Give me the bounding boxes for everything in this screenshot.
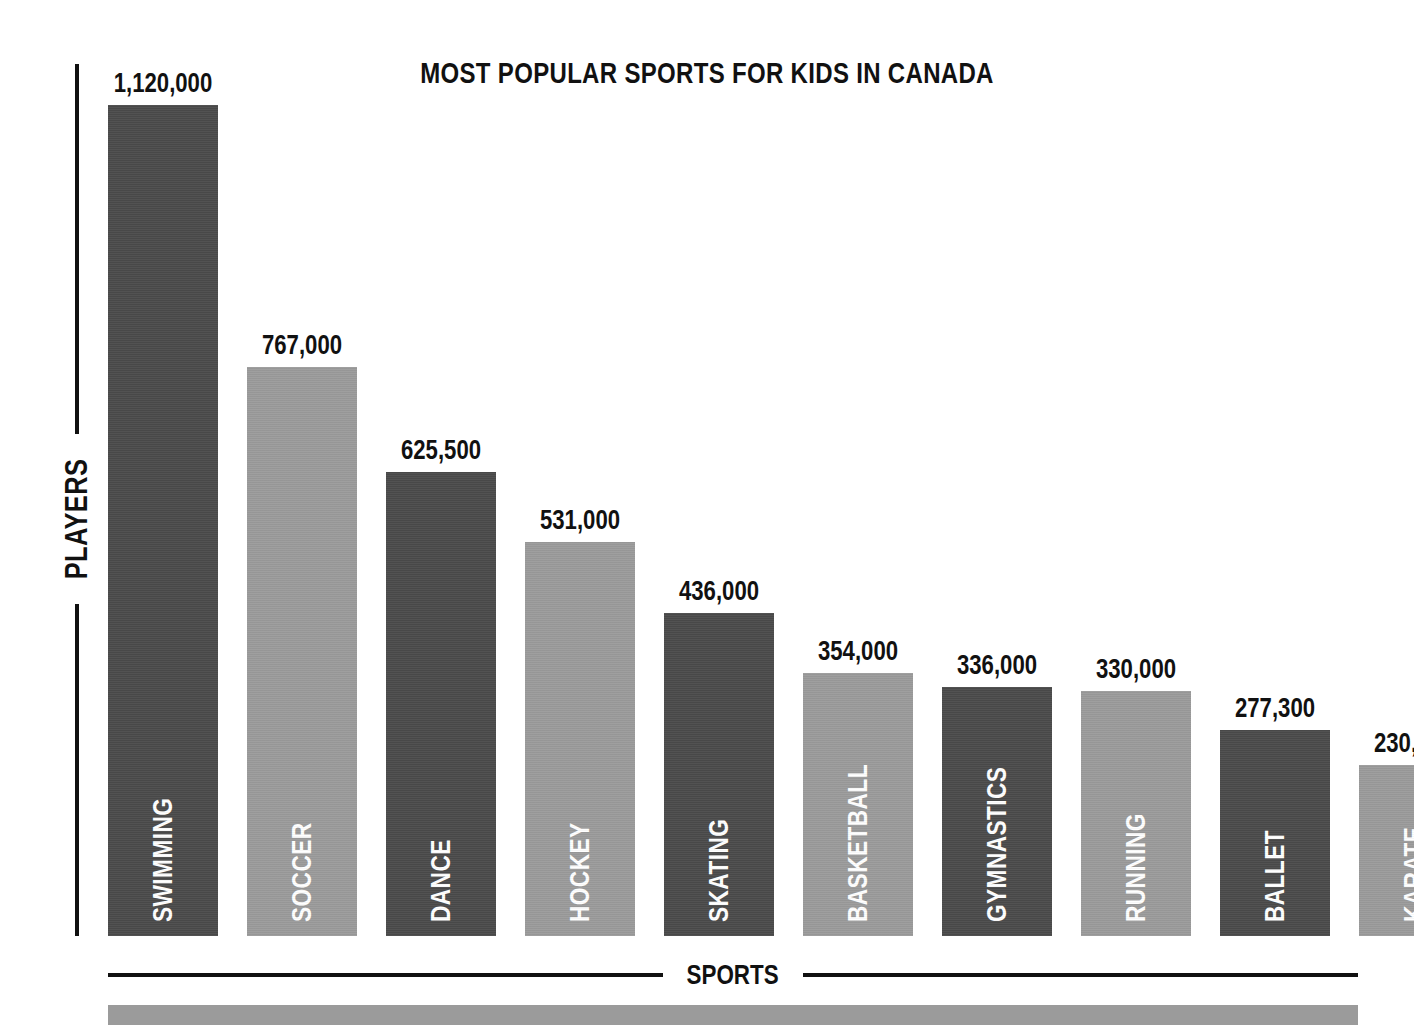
bar-rect: HOCKEY [525, 542, 635, 936]
bar-value-label: 330,000 [1096, 654, 1176, 685]
bar-swimming[interactable]: 1,120,000SWIMMING [108, 105, 218, 936]
bar-value-label: 625,500 [401, 435, 481, 466]
x-axis-line-left [108, 973, 663, 977]
bar-category-label: SOCCER [287, 822, 318, 922]
bar-category-label: GYMNASTICS [982, 767, 1013, 922]
x-axis-label: SPORTS [677, 959, 788, 991]
bar-category-label: BALLET [1260, 830, 1291, 922]
bar-rect: SWIMMING [108, 105, 218, 936]
plot-area: 1,120,000SWIMMING767,000SOCCER625,500DAN… [0, 0, 1414, 936]
bar-rect: SOCCER [247, 367, 357, 936]
bar-rect: GYMNASTICS [942, 687, 1052, 936]
bar-rect: KARATE [1359, 765, 1414, 936]
x-axis-line-right [803, 973, 1358, 977]
bar-dance[interactable]: 625,500DANCE [386, 472, 496, 936]
bar-rect: BALLET [1220, 730, 1330, 936]
bar-category-label: SWIMMING [148, 798, 179, 922]
bar-rect: RUNNING [1081, 691, 1191, 936]
bar-category-label: RUNNING [1121, 813, 1152, 922]
bar-value-label: 531,000 [540, 505, 620, 536]
bar-running[interactable]: 330,000RUNNING [1081, 691, 1191, 936]
bar-category-label: SKATING [704, 819, 735, 922]
bar-value-label: 230,000 [1374, 728, 1414, 759]
bar-value-label: 767,000 [262, 330, 342, 361]
bar-value-label: 354,000 [818, 636, 898, 667]
bar-value-label: 1,120,000 [114, 68, 213, 99]
x-axis: SPORTS [108, 960, 1358, 990]
bar-ballet[interactable]: 277,300BALLET [1220, 730, 1330, 936]
bar-rect: SKATING [664, 613, 774, 936]
bar-soccer[interactable]: 767,000SOCCER [247, 367, 357, 936]
bar-value-label: 336,000 [957, 650, 1037, 681]
bottom-accent-strip [108, 1005, 1358, 1025]
bar-value-label: 436,000 [679, 576, 759, 607]
bar-category-label: BASKETBALL [843, 764, 874, 922]
bar-category-label: DANCE [426, 839, 457, 922]
bar-hockey[interactable]: 531,000HOCKEY [525, 542, 635, 936]
bar-gymnastics[interactable]: 336,000GYMNASTICS [942, 687, 1052, 936]
bar-basketball[interactable]: 354,000BASKETBALL [803, 673, 913, 936]
bar-skating[interactable]: 436,000SKATING [664, 613, 774, 936]
bar-karate[interactable]: 230,000KARATE [1359, 765, 1414, 936]
bar-category-label: HOCKEY [565, 822, 596, 922]
bar-chart: MOST POPULAR SPORTS FOR KIDS IN CANADA P… [0, 0, 1414, 1025]
bar-rect: BASKETBALL [803, 673, 913, 936]
bar-category-label: KARATE [1399, 827, 1414, 922]
bar-value-label: 277,300 [1235, 693, 1315, 724]
bar-rect: DANCE [386, 472, 496, 936]
